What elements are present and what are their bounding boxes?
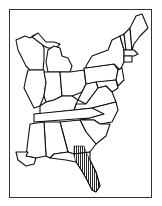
eastern-us-map [0, 0, 162, 206]
state-new-york [86, 36, 124, 70]
state-illinois [24, 70, 46, 108]
state-connecticut [124, 56, 132, 62]
state-michigan-lower [46, 46, 72, 72]
state-massachusetts [124, 50, 138, 56]
state-mississippi [26, 122, 46, 158]
state-maine [130, 14, 148, 50]
